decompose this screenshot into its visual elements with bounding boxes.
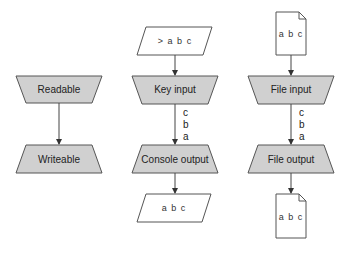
node-file-input: File input: [248, 76, 334, 104]
node-writeable: Writeable: [16, 145, 102, 173]
node-file-output-doc: a b c: [276, 194, 306, 238]
node-key-input: Key input: [132, 76, 218, 104]
file-stream-char-a: a: [299, 131, 305, 142]
file-output-label: File output: [268, 154, 315, 165]
node-console-output: Console output: [132, 145, 218, 173]
writeable-label: Writeable: [38, 154, 80, 165]
stream-diagram: Readable Writeable > a b c Key input c b…: [0, 0, 349, 258]
node-file-output: File output: [248, 145, 334, 173]
stream-char-a: a: [183, 131, 189, 142]
node-readable: Readable: [16, 76, 102, 103]
readable-label: Readable: [38, 84, 81, 95]
file-input-label: File input: [271, 84, 312, 95]
stream-char-c: c: [183, 107, 188, 118]
file-input-doc-label: a b c: [279, 29, 304, 39]
file-stream-char-c: c: [299, 107, 304, 118]
stream-char-b: b: [183, 119, 189, 130]
key-input-label: Key input: [154, 84, 196, 95]
console-output-data-label: a b c: [162, 203, 187, 213]
console-input-data-label: > a b c: [158, 36, 192, 46]
console-output-label: Console output: [141, 154, 208, 165]
file-stream-char-b: b: [299, 119, 305, 130]
node-console-output-data: a b c: [137, 194, 211, 222]
node-console-input-data: > a b c: [137, 27, 212, 55]
file-output-doc-label: a b c: [279, 212, 304, 222]
node-file-input-doc: a b c: [276, 12, 306, 55]
